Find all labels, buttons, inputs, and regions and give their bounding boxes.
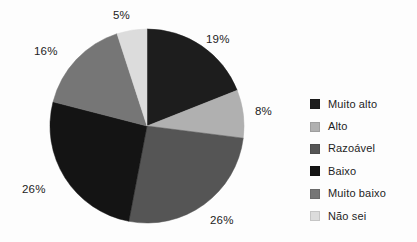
legend-item[interactable]: Alto [310,115,414,137]
slice-label-alto: 8% [255,106,272,118]
slice-label-nao-sei: 5% [113,10,130,22]
legend-item-label: Razoável [328,143,375,154]
pie-slice-group [50,29,244,223]
legend-item[interactable]: Razoável [310,138,414,160]
legend-swatch-icon [310,144,320,154]
legend-swatch-icon [310,211,320,221]
legend-item-label: Baixo [328,166,356,177]
legend-item-label: Alto [328,121,348,132]
legend-swatch-icon [310,166,320,176]
legend-item[interactable]: Muito alto [310,93,414,115]
slice-label-baixo: 26% [22,184,46,196]
pie-chart-figure: 5% 19% 8% 26% 26% 16% Muito altoAltoRazo… [0,0,417,242]
pie-chart-graphic [48,28,246,224]
legend-item-label: Muito alto [328,99,377,110]
pie-slice [129,126,243,223]
legend-item[interactable]: Não sei [310,205,414,227]
slice-label-muito-baixo: 16% [34,46,58,58]
slice-label-razoavel: 26% [210,215,234,227]
chart-legend: Muito altoAltoRazoávelBaixoMuito baixoNã… [310,93,414,227]
pie-svg [48,28,246,224]
legend-swatch-icon [310,99,320,109]
slice-label-muito-alto: 19% [206,34,230,46]
legend-item-label: Não sei [328,211,366,222]
legend-item[interactable]: Muito baixo [310,183,414,205]
legend-swatch-icon [310,122,320,132]
legend-item-label: Muito baixo [328,188,386,199]
legend-item[interactable]: Baixo [310,160,414,182]
legend-swatch-icon [310,189,320,199]
